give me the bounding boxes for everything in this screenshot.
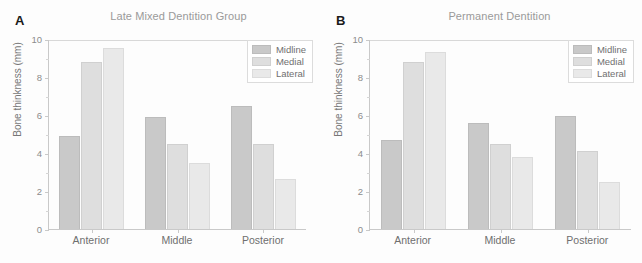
legend-swatch-icon: [573, 45, 592, 54]
x-tick-labels-a: AnteriorMiddlePosterior: [48, 234, 306, 246]
x-tick-label-anterior: Anterior: [369, 234, 456, 246]
y-tick-label: 2: [18, 186, 48, 198]
bar-midline-middle: [145, 117, 166, 229]
legend-item-lateral[interactable]: Lateral: [252, 68, 306, 79]
x-tick-label-posterior: Posterior: [544, 234, 631, 246]
x-tick-mark: [263, 229, 264, 233]
bar-midline-middle: [468, 123, 489, 229]
legend-a: MidlineMedialLateral: [247, 40, 313, 83]
bar-group: [135, 40, 221, 229]
legend-label: Midline: [597, 44, 627, 55]
x-tick-label-middle: Middle: [134, 234, 220, 246]
legend-item-midline[interactable]: Midline: [573, 44, 627, 55]
bar-lateral-anterior: [103, 48, 124, 229]
y-tick-label: 0: [18, 224, 48, 236]
bar-lateral-posterior: [599, 182, 620, 230]
y-tick-label: 6: [18, 110, 48, 122]
bar-medial-middle: [490, 144, 511, 230]
x-tick-mark: [501, 229, 502, 233]
y-tick-label: 10: [18, 34, 48, 46]
legend-label: Lateral: [276, 68, 305, 79]
x-tick-labels-b: AnteriorMiddlePosterior: [369, 234, 631, 246]
legend-item-midline[interactable]: Midline: [252, 44, 306, 55]
x-tick-label-middle: Middle: [456, 234, 543, 246]
x-tick-mark: [178, 229, 179, 233]
bar-group: [49, 40, 135, 229]
bar-midline-anterior: [381, 140, 402, 229]
legend-swatch-icon: [573, 69, 592, 78]
x-tick-mark: [92, 229, 93, 233]
bar-midline-posterior: [231, 106, 252, 229]
bar-lateral-middle: [512, 157, 533, 229]
bar-medial-posterior: [253, 144, 274, 230]
bar-medial-middle: [167, 144, 188, 230]
bar-lateral-posterior: [275, 179, 296, 229]
legend-b: MidlineMedialLateral: [568, 40, 634, 83]
x-tick-label-posterior: Posterior: [220, 234, 306, 246]
y-tick-label: 4: [339, 148, 369, 160]
legend-item-lateral[interactable]: Lateral: [573, 68, 627, 79]
bar-medial-anterior: [81, 62, 102, 229]
bar-medial-posterior: [577, 151, 598, 229]
legend-swatch-icon: [252, 57, 271, 66]
figure-container: A Late Mixed Dentition Group Bone thinkn…: [0, 0, 642, 263]
bar-midline-anterior: [59, 136, 80, 229]
y-tick-label: 8: [18, 72, 48, 84]
chart-title-a: Late Mixed Dentition Group: [44, 10, 313, 22]
y-tick-mark: [366, 230, 370, 231]
legend-swatch-icon: [252, 45, 271, 54]
legend-swatch-icon: [573, 57, 592, 66]
legend-swatch-icon: [252, 69, 271, 78]
bar-group: [457, 40, 544, 229]
legend-item-medial[interactable]: Medial: [252, 56, 306, 67]
bar-medial-anterior: [403, 62, 424, 229]
panel-b: B Permanent Dentition Bone thinkness (mm…: [321, 0, 642, 263]
y-tick-label: 2: [339, 186, 369, 198]
y-tick-label: 10: [339, 34, 369, 46]
y-tick-mark: [45, 230, 49, 231]
panel-a: A Late Mixed Dentition Group Bone thinkn…: [0, 0, 321, 263]
x-tick-label-anterior: Anterior: [48, 234, 134, 246]
y-tick-label: 6: [339, 110, 369, 122]
bar-lateral-anterior: [425, 52, 446, 229]
legend-label: Medial: [276, 56, 304, 67]
legend-label: Midline: [276, 44, 306, 55]
y-tick-label: 8: [339, 72, 369, 84]
legend-item-medial[interactable]: Medial: [573, 56, 627, 67]
legend-label: Lateral: [597, 68, 626, 79]
x-tick-mark: [588, 229, 589, 233]
y-tick-label: 0: [339, 224, 369, 236]
x-tick-mark: [414, 229, 415, 233]
bar-lateral-middle: [189, 163, 210, 229]
bar-midline-posterior: [555, 116, 576, 229]
y-tick-label: 4: [18, 148, 48, 160]
chart-title-b: Permanent Dentition: [365, 10, 634, 22]
legend-label: Medial: [597, 56, 625, 67]
bar-group: [370, 40, 457, 229]
